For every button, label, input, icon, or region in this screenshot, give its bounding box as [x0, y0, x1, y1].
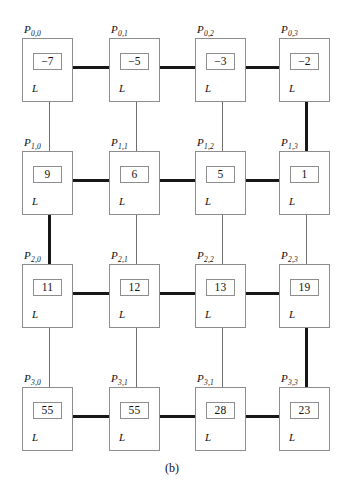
processor-label-subscript: 2,0 — [31, 255, 41, 264]
processor-value-3-0: 55 — [33, 402, 62, 419]
processor-label-letter: P — [24, 249, 31, 261]
processor-label-letter: P — [24, 136, 31, 148]
processor-label-0-2: P0,2 — [197, 24, 214, 35]
processor-label-letter: P — [197, 136, 204, 148]
processor-mode-0-1: L — [119, 83, 125, 94]
processor-value-3-2: 28 — [206, 402, 235, 419]
processor-value-1-2: 5 — [206, 166, 235, 183]
processor-value-3-3: 23 — [290, 402, 319, 419]
link-vertical-c2-r2-r3 — [222, 328, 223, 387]
processor-cell-3-0[interactable]: 55L — [22, 387, 73, 451]
processor-label-subscript: 2,3 — [288, 255, 298, 264]
link-vertical-c0-r2-r3 — [49, 328, 50, 387]
processor-value-1-0: 9 — [33, 166, 62, 183]
processor-label-letter: P — [197, 23, 204, 35]
processor-value-0-2: −3 — [206, 53, 235, 70]
processor-label-2-1: P2,1 — [111, 250, 128, 261]
processor-value-0-1: −5 — [120, 53, 149, 70]
processor-cell-0-2[interactable]: −3L — [195, 38, 246, 102]
processor-cell-2-1[interactable]: 12L — [109, 264, 160, 328]
processor-value-1-3: 1 — [290, 166, 319, 183]
processor-value-0-3: −2 — [290, 53, 319, 70]
link-vertical-c3-r2-r3 — [305, 328, 308, 387]
processor-cell-0-3[interactable]: −2L — [279, 38, 330, 102]
processor-label-letter: P — [24, 372, 31, 384]
processor-label-letter: P — [197, 249, 204, 261]
processor-cell-2-2[interactable]: 13L — [195, 264, 246, 328]
processor-mode-2-1: L — [119, 309, 125, 320]
processor-label-letter: P — [281, 23, 288, 35]
processor-cell-1-2[interactable]: 5L — [195, 151, 246, 215]
link-horizontal-r2-c2-c3 — [246, 292, 279, 295]
processor-label-subscript: 1,2 — [204, 142, 214, 151]
processor-label-2-3: P2,3 — [281, 250, 298, 261]
processor-mode-0-2: L — [205, 83, 211, 94]
processor-cell-3-3[interactable]: 23L — [279, 387, 330, 451]
processor-label-2-0: P2,0 — [24, 250, 41, 261]
processor-label-letter: P — [24, 23, 31, 35]
processor-cell-1-0[interactable]: 9L — [22, 151, 73, 215]
processor-label-subscript: 2,1 — [118, 255, 128, 264]
processor-label-subscript: 3,0 — [31, 378, 41, 387]
processor-cell-0-0[interactable]: −7L — [22, 38, 73, 102]
link-horizontal-r0-c1-c2 — [160, 66, 195, 69]
processor-label-subscript: 0,0 — [31, 29, 41, 38]
figure-caption: (b) — [0, 462, 344, 474]
processor-value-2-1: 12 — [120, 279, 149, 296]
processor-cell-3-1[interactable]: 55L — [109, 387, 160, 451]
processor-mode-0-3: L — [289, 83, 295, 94]
processor-label-subscript: 2,2 — [204, 255, 214, 264]
processor-mode-1-3: L — [289, 196, 295, 207]
processor-label-subscript: 1,3 — [288, 142, 298, 151]
processor-label-1-3: P1,3 — [281, 137, 298, 148]
processor-cell-3-2[interactable]: 28L — [195, 387, 246, 451]
processor-mode-0-0: L — [32, 83, 38, 94]
processor-label-letter: P — [111, 372, 118, 384]
link-horizontal-r1-c2-c3 — [246, 179, 279, 182]
link-vertical-c3-r0-r1 — [305, 102, 308, 151]
processor-mode-3-0: L — [32, 432, 38, 443]
processor-label-subscript: 3,1 — [118, 378, 128, 387]
processor-mode-1-2: L — [205, 196, 211, 207]
processor-label-subscript: 0,3 — [288, 29, 298, 38]
link-horizontal-r0-c2-c3 — [246, 66, 279, 69]
processor-array-figure: P0,0−7LP0,1−5LP0,2−3LP0,3−2LP1,09LP1,16L… — [0, 0, 344, 492]
processor-label-letter: P — [281, 136, 288, 148]
processor-label-letter: P — [111, 249, 118, 261]
link-vertical-c1-r0-r1 — [136, 102, 137, 151]
processor-label-3-3: P3,3 — [281, 373, 298, 384]
link-horizontal-r3-c0-c1 — [73, 415, 109, 418]
processor-label-subscript: 1,1 — [118, 142, 128, 151]
link-vertical-c2-r1-r2 — [222, 215, 223, 264]
processor-label-subscript: 3,1 — [204, 378, 214, 387]
processor-mode-1-0: L — [32, 196, 38, 207]
processor-label-subscript: 1,0 — [31, 142, 41, 151]
processor-cell-2-3[interactable]: 19L — [279, 264, 330, 328]
processor-label-1-0: P1,0 — [24, 137, 41, 148]
processor-label-2-2: P2,2 — [197, 250, 214, 261]
link-horizontal-r3-c1-c2 — [160, 415, 195, 418]
processor-label-1-2: P1,2 — [197, 137, 214, 148]
processor-mode-2-3: L — [289, 309, 295, 320]
processor-label-3-0: P3,0 — [24, 373, 41, 384]
link-horizontal-r2-c0-c1 — [73, 292, 109, 295]
processor-label-0-0: P0,0 — [24, 24, 41, 35]
processor-cell-1-3[interactable]: 1L — [279, 151, 330, 215]
processor-value-2-0: 11 — [33, 279, 62, 296]
link-vertical-c0-r1-r2 — [48, 215, 51, 264]
processor-label-letter: P — [197, 372, 204, 384]
processor-cell-0-1[interactable]: −5L — [109, 38, 160, 102]
processor-cell-1-1[interactable]: 6L — [109, 151, 160, 215]
link-horizontal-r1-c0-c1 — [73, 179, 109, 182]
link-horizontal-r3-c2-c3 — [246, 415, 279, 418]
processor-value-3-1: 55 — [120, 402, 149, 419]
link-horizontal-r2-c1-c2 — [160, 292, 195, 295]
link-horizontal-r0-c0-c1 — [73, 66, 109, 69]
processor-value-2-2: 13 — [206, 279, 235, 296]
link-vertical-c0-r0-r1 — [49, 102, 50, 151]
processor-mode-3-1: L — [119, 432, 125, 443]
processor-cell-2-0[interactable]: 11L — [22, 264, 73, 328]
processor-mode-3-3: L — [289, 432, 295, 443]
processor-label-letter: P — [111, 23, 118, 35]
processor-label-subscript: 0,2 — [204, 29, 214, 38]
